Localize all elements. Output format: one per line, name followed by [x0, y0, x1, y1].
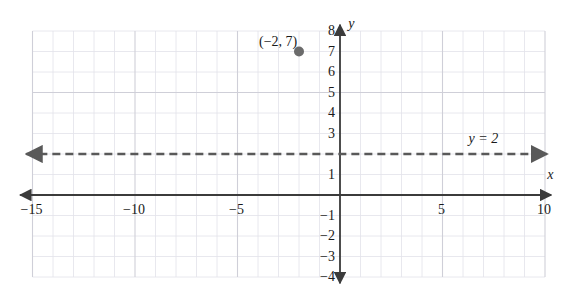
x-tick-label: −10	[123, 203, 145, 217]
y-tick-label: 5	[328, 86, 335, 100]
graph-canvas: −15−10−55108765431−1−2−3−4(−2, 7)y = 2xy	[0, 0, 566, 300]
x-tick-label: −15	[21, 203, 43, 217]
x-tick-label: −5	[229, 203, 244, 217]
y-tick-label: 7	[328, 45, 335, 59]
x-axis-name: x	[547, 168, 553, 182]
y-tick-label: −1	[320, 209, 335, 223]
point-label: (−2, 7)	[259, 35, 297, 49]
x-tick-label: 10	[537, 203, 551, 217]
y-tick-label: −4	[320, 270, 335, 284]
y-tick-label: −2	[320, 229, 335, 243]
x-tick-label: 5	[438, 203, 445, 217]
y-axis-name: y	[348, 17, 354, 31]
line-equation: y = 2	[469, 132, 499, 146]
y-tick-label: −3	[320, 250, 335, 264]
y-tick-label: 1	[328, 168, 335, 182]
y-tick-label: 4	[328, 106, 335, 120]
y-tick-label: 8	[328, 24, 335, 38]
y-tick-label: 3	[328, 127, 335, 141]
y-tick-label: 6	[328, 65, 335, 79]
